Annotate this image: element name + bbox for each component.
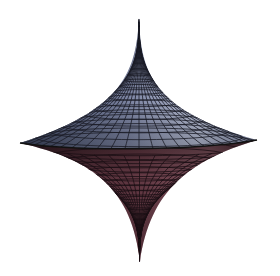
- upper-cone: [20, 18, 258, 154]
- figure-canvas: [0, 0, 280, 276]
- lower-cone: [20, 134, 259, 262]
- astroid-surface-render: [0, 0, 280, 276]
